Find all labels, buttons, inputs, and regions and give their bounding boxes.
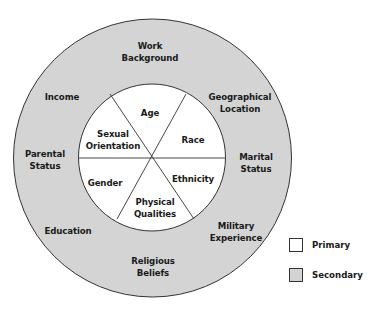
secondary-label-work-background: Work Background	[122, 40, 179, 64]
secondary-label-education: Education	[44, 225, 91, 237]
primary-label-sexual-orientation: Sexual Orientation	[86, 128, 140, 152]
legend-swatch-secondary	[289, 268, 303, 282]
primary-label-physical-qualities: Physical Qualities	[134, 196, 176, 220]
secondary-label-geographical-location: Geographical Location	[209, 91, 272, 115]
secondary-label-income: Income	[45, 91, 80, 103]
primary-label-age: Age	[141, 107, 159, 119]
legend-label-primary: Primary	[312, 240, 350, 250]
secondary-label-military-experience: Military Experience	[210, 220, 262, 244]
secondary-label-marital-status: Marital Status	[239, 151, 273, 175]
primary-label-gender: Gender	[88, 177, 123, 189]
primary-label-race: Race	[182, 134, 205, 146]
secondary-label-parental-status: Parental Status	[25, 148, 65, 172]
legend-label-secondary: Secondary	[312, 270, 363, 280]
secondary-label-religious-beliefs: Religious Beliefs	[131, 255, 175, 279]
primary-label-ethnicity: Ethnicity	[172, 173, 214, 185]
legend-swatch-primary	[289, 238, 303, 252]
